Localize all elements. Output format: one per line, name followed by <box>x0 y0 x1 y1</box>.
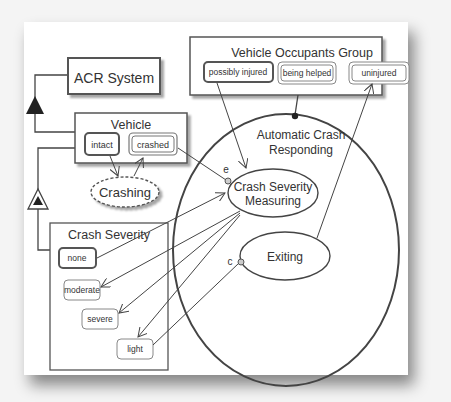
state-intact[interactable]: intact <box>85 133 119 155</box>
process-label: Crashing <box>99 185 151 200</box>
state-label: light <box>127 344 143 354</box>
state-label: none <box>68 253 87 263</box>
opm-diagram: ACR System Vehicle intact crashed Crashi… <box>0 0 451 402</box>
state-label: crashed <box>137 140 169 150</box>
aggregation-triangle-icon <box>26 96 44 114</box>
process-label: Crash Severity <box>234 180 313 194</box>
state-label: being helped <box>283 68 332 78</box>
process-label: Responding <box>269 143 333 157</box>
object-label: ACR System <box>74 70 154 86</box>
process-crash-severity-measuring[interactable]: Crash Severity Measuring <box>228 169 318 217</box>
process-label: Automatic Crash <box>257 128 346 142</box>
state-label: severe <box>87 314 113 324</box>
condition-circle-icon <box>238 259 244 265</box>
state-crashed[interactable]: crashed <box>129 133 177 155</box>
condition-label: c <box>228 256 233 267</box>
agent-link <box>295 95 298 115</box>
process-exiting[interactable]: Exiting <box>240 232 330 280</box>
state-severe[interactable]: severe <box>82 309 118 329</box>
event-circle-icon <box>225 178 231 184</box>
state-label: possibly injured <box>209 67 268 77</box>
object-label: Vehicle <box>111 118 151 132</box>
result-link-uninjured <box>317 84 372 238</box>
state-label: intact <box>91 140 113 150</box>
state-uninjured[interactable]: uninjured <box>349 62 409 84</box>
state-light[interactable]: light <box>117 339 153 359</box>
state-label: moderate <box>64 285 100 295</box>
event-label: e <box>223 164 229 175</box>
process-label: Measuring <box>245 194 301 208</box>
object-label: Crash Severity <box>68 228 151 242</box>
object-label: Vehicle Occupants Group <box>231 46 373 60</box>
agent-dot-icon <box>292 113 298 119</box>
state-label: uninjured <box>362 68 397 78</box>
process-crashing[interactable]: Crashing <box>91 177 159 207</box>
state-none[interactable]: none <box>59 248 96 268</box>
object-acr-system[interactable]: ACR System <box>68 58 160 94</box>
event-link-crashed <box>178 148 226 180</box>
process-label: Exiting <box>267 250 303 264</box>
state-being-helped[interactable]: being helped <box>278 62 336 84</box>
state-possibly-injured[interactable]: possibly injured <box>204 62 273 82</box>
state-moderate[interactable]: moderate <box>64 280 100 300</box>
